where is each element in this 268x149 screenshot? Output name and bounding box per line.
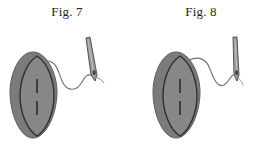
needle-eye-fig7 <box>93 70 96 75</box>
figure-caption-fig7: Fig. 7 <box>0 4 134 20</box>
needle-eye-fig8 <box>235 70 238 75</box>
figure-artwork-fig8 <box>134 22 268 149</box>
figure-panel-fig8: Fig. 8 <box>134 0 268 149</box>
figure-artwork-fig7 <box>0 22 134 149</box>
figure-caption-fig8: Fig. 8 <box>134 4 268 20</box>
figure-panel-fig7: Fig. 7 <box>0 0 134 149</box>
patent-drawing-sheet: Fig. 7 Fig. 8 <box>0 0 268 149</box>
thread-tail-fig8 <box>237 77 243 85</box>
